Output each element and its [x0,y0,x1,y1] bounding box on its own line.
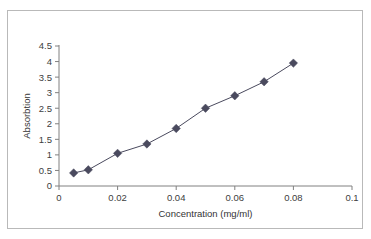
y-axis-title: Absorbtion [21,93,32,138]
x-tick-label: 0.02 [108,192,127,203]
y-tick-label: 0 [47,180,52,191]
data-point-marker [260,78,268,86]
y-tick-label: 0.5 [39,165,52,176]
chart-figure: 00.511.522.533.544.500.020.040.060.080.1… [0,0,371,239]
calibration-scatter-chart: 00.511.522.533.544.500.020.040.060.080.1… [0,0,371,239]
x-axis-title: Concentration (mg/ml) [159,208,253,219]
x-tick-label: 0.08 [284,192,303,203]
y-tick-label: 1 [47,149,52,160]
y-tick-label: 4.5 [39,40,52,51]
y-tick-label: 3 [47,87,52,98]
data-point-marker [69,169,77,177]
x-tick-label: 0.06 [226,192,245,203]
y-tick-label: 2 [47,118,52,129]
plot-area: 00.511.522.533.544.500.020.040.060.080.1… [21,40,359,219]
x-tick-label: 0.1 [345,192,358,203]
y-tick-label: 4 [47,56,52,67]
data-point-marker [113,149,121,157]
y-tick-label: 3.5 [39,72,52,83]
data-point-marker [289,59,297,67]
x-tick-label: 0.04 [167,192,186,203]
data-point-marker [84,166,92,174]
y-tick-label: 2.5 [39,103,52,114]
data-point-marker [172,124,180,132]
series-line [74,63,294,173]
data-point-marker [201,104,209,112]
data-point-marker [231,92,239,100]
y-tick-label: 1.5 [39,134,52,145]
x-tick-label: 0 [56,192,61,203]
data-point-marker [143,140,151,148]
